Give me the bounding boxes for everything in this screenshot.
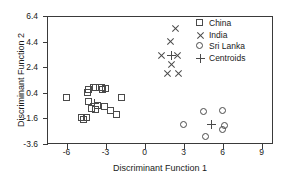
data-point-india [157,51,166,60]
y-tick [43,93,48,94]
x-tick-label: 6 [210,148,236,157]
data-point-china [118,94,125,101]
y-tick [43,42,48,43]
y-tick [43,118,48,119]
cross-marker-icon [196,31,205,40]
data-point-sri-lanka [202,133,209,140]
data-point-sri-lanka [180,121,187,128]
x-tick-label: -6 [54,148,80,157]
y-axis-label: Discriminant Function 2 [16,5,26,155]
data-point-centroids [167,51,176,60]
data-point-china [83,114,90,121]
y-tick [43,67,48,68]
legend-label: China [209,18,231,29]
legend-label: Centroids [209,53,245,64]
data-point-centroids [90,99,99,108]
data-point-centroids [207,120,216,129]
data-point-india [171,24,180,33]
legend-label: India [209,30,227,41]
data-point-china [113,111,120,118]
x-tick-label: 0 [132,148,158,157]
x-axis-label: Discriminant Function 1 [47,163,273,173]
circle-marker-icon [196,42,203,49]
y-tick [43,144,48,145]
scatter-plot-figure: -3.6-1.60.42.44.46.4 -6-30369 Discrimina… [0,0,290,186]
plus-marker-icon [196,54,205,63]
data-point-india [174,69,183,78]
legend-item-sri-lanka[interactable]: Sri Lanka [196,41,272,52]
legend-item-india[interactable]: India [196,30,272,41]
x-tick-label: 3 [171,148,197,157]
data-point-sri-lanka [200,108,207,115]
legend: ChinaIndiaSri LankaCentroids [196,18,272,64]
y-tick [43,16,48,17]
x-tick-label: 9 [249,148,275,157]
legend-item-centroids[interactable]: Centroids [196,53,272,64]
x-tick-label: -3 [93,148,119,157]
legend-item-china[interactable]: China [196,18,272,29]
data-point-india [163,69,172,78]
legend-label: Sri Lanka [209,41,245,52]
square-marker-icon [196,19,203,26]
data-point-india [166,37,175,46]
data-point-china [102,85,109,92]
data-point-china [63,94,70,101]
